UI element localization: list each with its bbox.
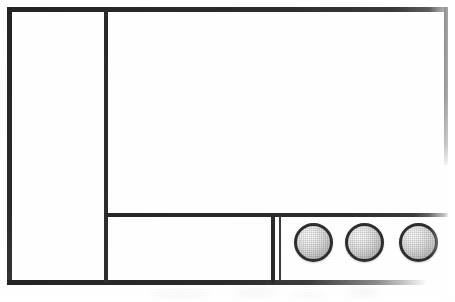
cell-lower-middle[interactable] — [108, 217, 271, 280]
sphere-icon-3[interactable] — [399, 223, 438, 262]
scan-smudge-1 — [150, 291, 210, 297]
cell-upper-panel[interactable] — [108, 12, 444, 213]
frame-bottom-border — [7, 280, 427, 285]
sphere-row — [281, 217, 455, 280]
frame-right-border — [444, 7, 448, 165]
cell-left-column[interactable] — [12, 12, 104, 280]
scanned-diagram-page — [0, 0, 455, 302]
sphere-icon-2[interactable] — [345, 223, 384, 262]
scan-smudge-3 — [290, 292, 328, 297]
scan-smudge-2 — [232, 289, 278, 296]
sphere-icon-1[interactable] — [294, 223, 333, 262]
scan-smudge-4 — [345, 288, 379, 296]
cell-divider-rule-outer — [271, 215, 275, 283]
